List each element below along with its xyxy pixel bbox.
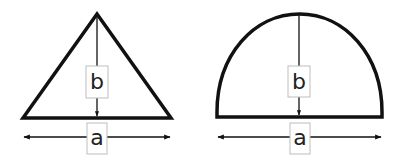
semi-ellipse-height-label-text: b [292,69,306,94]
triangle-height-label-text: b [90,69,104,94]
semi-ellipse-width-label-text: a [293,125,306,150]
diagram-canvas: b a b a [0,0,402,165]
semi-ellipse-figure: b a [217,14,382,154]
semi-ellipse-width-label: a [290,123,310,154]
triangle-width-label: a [87,123,107,154]
semi-ellipse-height-label: b [288,66,310,97]
triangle-figure: b a [23,14,171,154]
triangle-width-label-text: a [90,125,103,150]
triangle-height-label: b [86,66,108,98]
